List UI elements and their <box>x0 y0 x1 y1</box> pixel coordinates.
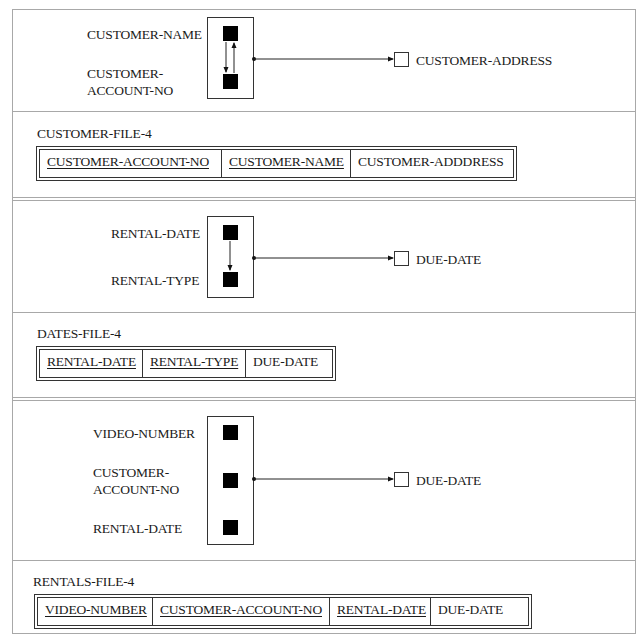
dependent-attribute-square <box>394 472 409 487</box>
determinant-label: CUSTOMER- <box>87 65 163 82</box>
double-divider-bottom <box>12 200 636 201</box>
dependent-attribute-square <box>394 52 409 67</box>
determinant-label: ACCOUNT-NO <box>87 82 173 99</box>
determinant-label: ACCOUNT-NO <box>93 481 179 498</box>
key-attribute-square <box>223 225 238 240</box>
double-divider-top <box>12 197 636 198</box>
dependent-label: CUSTOMER-ADDRESS <box>416 52 552 69</box>
table-cell-key: RENTAL-DATE <box>330 598 431 625</box>
file-name: RENTALS-FILE-4 <box>33 573 134 590</box>
double-divider-top <box>12 397 636 398</box>
dependent-attribute-square <box>394 251 409 266</box>
key-attribute-square <box>223 520 238 535</box>
table-cell: DUE-DATE <box>431 598 528 625</box>
determinant-label: CUSTOMER-NAME <box>87 26 202 43</box>
determinant-label: RENTAL-DATE <box>93 520 182 537</box>
table-cell-key: VIDEO-NUMBER <box>38 598 153 625</box>
record-layout-table: RENTAL-DATE RENTAL-TYPE DUE-DATE <box>36 346 336 381</box>
table-cell: DUE-DATE <box>246 350 332 377</box>
divider <box>12 312 636 313</box>
key-attribute-square <box>223 74 238 89</box>
divider <box>12 560 636 561</box>
dependent-label: DUE-DATE <box>416 472 481 489</box>
key-attribute-square <box>223 272 238 287</box>
table-cell-key: CUSTOMER-ACCOUNT-NO <box>153 598 330 625</box>
determinant-label: CUSTOMER- <box>93 464 169 481</box>
table-cell: CUSTOMER-ADDDRESS <box>351 150 513 177</box>
table-cell-key: RENTAL-TYPE <box>143 350 246 377</box>
divider <box>12 111 636 112</box>
record-layout-table: VIDEO-NUMBER CUSTOMER-ACCOUNT-NO RENTAL-… <box>34 594 532 629</box>
diagram-frame <box>12 9 636 634</box>
key-attribute-square <box>223 26 238 41</box>
table-cell-key: RENTAL-DATE <box>40 350 143 377</box>
determinant-label: VIDEO-NUMBER <box>93 425 195 442</box>
file-name: CUSTOMER-FILE-4 <box>37 125 152 142</box>
double-divider-bottom <box>12 400 636 401</box>
dependent-label: DUE-DATE <box>416 251 481 268</box>
record-layout-table: CUSTOMER-ACCOUNT-NO CUSTOMER-NAME CUSTOM… <box>36 146 517 181</box>
key-attribute-square <box>223 425 238 440</box>
file-name: DATES-FILE-4 <box>37 325 121 342</box>
determinant-label: RENTAL-DATE <box>111 225 200 242</box>
determinant-label: RENTAL-TYPE <box>111 272 199 289</box>
key-attribute-square <box>223 473 238 488</box>
table-cell-key: CUSTOMER-NAME <box>222 150 351 177</box>
table-cell-key: CUSTOMER-ACCOUNT-NO <box>40 150 222 177</box>
